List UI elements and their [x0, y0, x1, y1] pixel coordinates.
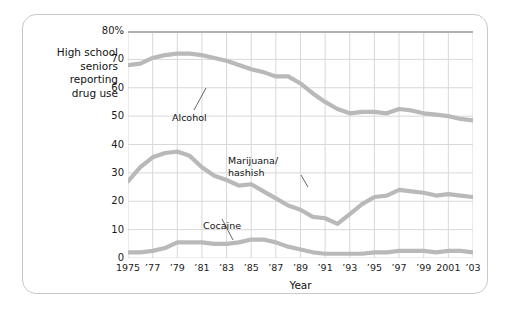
x-tick-label: ’97 [392, 262, 407, 273]
x-tick-label: ’87 [268, 262, 283, 273]
x-tick-label: ’89 [293, 262, 308, 273]
x-tick-label: ’93 [342, 262, 357, 273]
y-tick-label: 50 [84, 111, 124, 121]
x-tick-label: ’99 [416, 262, 431, 273]
y-tick-label: 40 [84, 140, 124, 150]
annotation-marijuana: Marijuana/ hashish [228, 155, 278, 178]
annotation-alcohol: Alcohol [172, 112, 207, 124]
chart-figure: High school seniors reporting drug use 0… [0, 0, 507, 315]
x-tick-label: ’95 [367, 262, 382, 273]
x-tick-label: ’85 [244, 262, 259, 273]
x-tick-label: ’79 [170, 262, 185, 273]
x-tick-label: ’03 [465, 262, 480, 273]
x-tick-label: 2001 [436, 262, 460, 273]
x-tick-label: ’77 [145, 262, 160, 273]
x-tick-label: ’83 [219, 262, 234, 273]
leader-marijuana [301, 175, 308, 187]
x-tick-label: ’81 [194, 262, 209, 273]
y-tick-label: 20 [84, 196, 124, 206]
leader-alcohol [194, 88, 206, 110]
x-tick-label: ’91 [318, 262, 333, 273]
annotation-cocaine: Cocaine [203, 220, 241, 232]
y-tick-label: 10 [84, 225, 124, 235]
y-tick-label: 60 [84, 83, 124, 93]
x-tick-label: 1975 [116, 262, 140, 273]
y-tick-label: 30 [84, 168, 124, 178]
y-tick-label: 70 [84, 54, 124, 64]
annotation-marijuana-line-2: hashish [228, 167, 278, 179]
x-axis: 1975’77’79’81’83’85’87’89’91’93’95’97’99… [128, 262, 473, 278]
plot-area [128, 31, 473, 258]
y-tick-label: 80% [84, 26, 124, 36]
x-axis-label: Year [128, 279, 473, 291]
plot-svg [128, 31, 473, 258]
annotation-marijuana-line-1: Marijuana/ [228, 155, 278, 167]
